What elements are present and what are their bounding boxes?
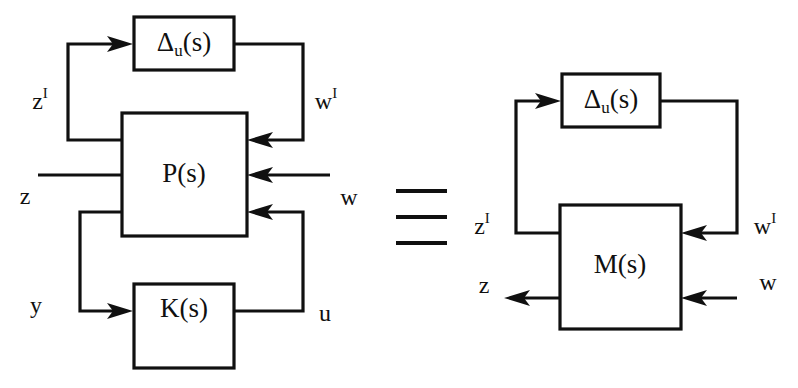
label-zI-left: zI bbox=[32, 85, 48, 113]
label-wI-right-sup: I bbox=[771, 210, 776, 226]
label-wI-right: wI bbox=[754, 210, 776, 238]
wire-zI-feedback-left bbox=[68, 44, 126, 140]
delta-suffix-right: (s) bbox=[610, 84, 639, 114]
label-wI-right-base: w bbox=[754, 213, 772, 239]
wire-y-to-controller bbox=[80, 212, 126, 311]
equivalence-symbol bbox=[396, 191, 447, 243]
left-diagram-group: Δu(s) P(s) K(s) zI bbox=[20, 17, 359, 368]
delta-suffix-left: (s) bbox=[183, 27, 212, 57]
delta-glyph-left: Δ bbox=[157, 27, 174, 57]
label-z-left: z bbox=[20, 183, 31, 209]
label-wI-left-base: w bbox=[315, 88, 333, 114]
block-controller-label: K(s) bbox=[160, 293, 208, 323]
label-zI-left-sup: I bbox=[43, 85, 48, 101]
right-diagram-group: Δu(s) M(s) zI wI z w bbox=[474, 74, 777, 329]
block-diagram-canvas: Δu(s) P(s) K(s) zI bbox=[0, 0, 798, 388]
wire-zI-feedback-right bbox=[516, 101, 560, 233]
label-w-left: w bbox=[340, 184, 358, 210]
label-u-left: u bbox=[319, 300, 331, 326]
label-zI-left-base: z bbox=[32, 88, 43, 114]
label-zI-right-sup: I bbox=[485, 210, 490, 226]
label-wI-left-sup: I bbox=[332, 85, 337, 101]
label-zI-right: zI bbox=[474, 210, 490, 238]
block-plant-label: P(s) bbox=[162, 158, 206, 188]
block-m-label: M(s) bbox=[594, 249, 647, 279]
delta-glyph-right: Δ bbox=[584, 84, 601, 114]
label-wI-left: wI bbox=[315, 85, 337, 113]
label-w-right: w bbox=[759, 269, 777, 295]
label-z-right: z bbox=[479, 272, 490, 298]
block-diagram-figure: Δu(s) P(s) K(s) zI bbox=[0, 0, 798, 388]
label-zI-right-base: z bbox=[474, 213, 485, 239]
label-y-left: y bbox=[30, 292, 42, 318]
block-delta-left-label: Δu(s) bbox=[157, 27, 211, 60]
block-delta-right-label: Δu(s) bbox=[584, 84, 638, 117]
